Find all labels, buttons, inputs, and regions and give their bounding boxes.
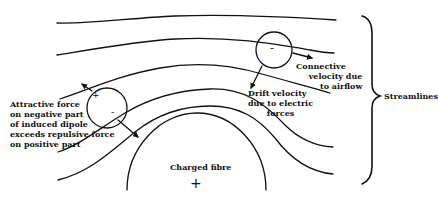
streamlines-brace: [362, 16, 380, 184]
right-particle-minus-sign: -: [270, 42, 274, 53]
right-particle: [256, 32, 292, 68]
drift-velocity-arrow: [251, 66, 262, 88]
fibre-plus-sign: +: [190, 176, 202, 190]
convective-velocity-label: Connective velocity due to airflow: [296, 61, 362, 91]
convective-velocity-arrow: [293, 53, 312, 58]
attractive-force-label: Attractive force on negative part of ind…: [10, 99, 115, 149]
attractive-force-arrow: [118, 120, 138, 137]
drift-velocity-label: Drift velocity due to electric forces: [248, 88, 313, 118]
streamlines-label: Streamlines: [384, 91, 438, 101]
charged-fibre-label: Charged fibre: [170, 162, 231, 172]
streamline-1: [57, 15, 336, 23]
